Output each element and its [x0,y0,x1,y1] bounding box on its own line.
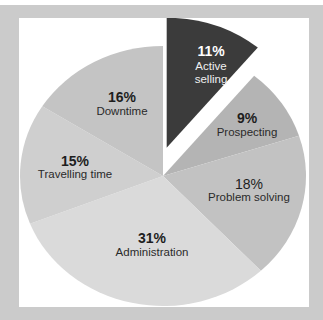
downtime-percent: 16% [108,89,137,105]
downtime-name: Downtime [96,105,147,117]
problem-solving-percent: 18% [235,176,263,192]
administration-name: Administration [116,246,189,258]
administration-percent: 31% [138,230,167,246]
active-selling-name-line2: selling [195,73,228,85]
slice-label-active-selling: 11% Active selling [195,43,228,85]
prospecting-name: Prospecting [217,126,278,138]
problem-solving-name: Problem solving [208,191,290,203]
prospecting-percent: 9% [237,110,258,126]
active-selling-percent: 11% [197,43,225,59]
pie-chart: 11% Active selling 9% Prospecting 18% Pr… [0,0,323,320]
travelling-time-percent: 15% [61,153,90,169]
travelling-time-name: Travelling time [38,168,112,180]
active-selling-name-line1: Active [195,60,226,72]
